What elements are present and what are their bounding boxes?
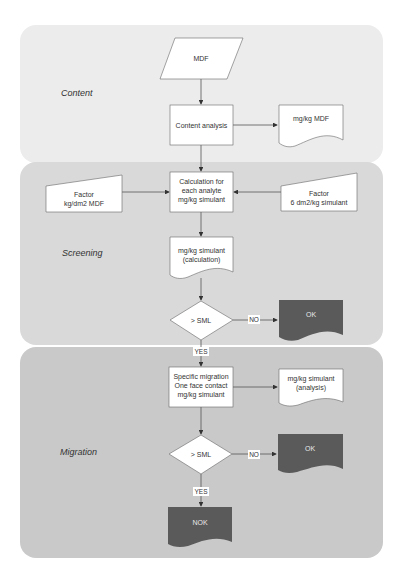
svg-text:mg/kg simulant: mg/kg simulant [287,375,334,383]
section-label-content: Content [61,88,93,98]
svg-text:(analysis): (analysis) [296,384,326,392]
svg-text:Specific migration: Specific migration [173,373,228,381]
svg-text:mg/kg MDF: mg/kg MDF [293,115,329,123]
edge-label-yes-2: YES [194,488,208,495]
section-label-migration: Migration [60,447,97,457]
svg-text:Factor: Factor [309,190,330,197]
svg-text:(calculation): (calculation) [183,256,221,264]
svg-text:OK: OK [306,311,316,318]
edge-label-no-2: NO [249,451,259,458]
section-label-screening: Screening [62,248,103,258]
svg-text:Content analysis: Content analysis [176,122,228,130]
svg-text:> SML: > SML [191,451,212,458]
svg-text:kg/dm2 MDF: kg/dm2 MDF [64,200,104,208]
edge-label-no-1: NO [249,316,259,323]
svg-text:NOK: NOK [192,519,208,526]
svg-text:each analyte: each analyte [182,187,222,195]
svg-text:Calculation for: Calculation for [179,178,224,185]
svg-text:mg/kg simulant: mg/kg simulant [178,247,225,255]
svg-text:mg/kg simulant: mg/kg simulant [177,391,224,399]
edge-label-yes-1: YES [194,348,208,355]
svg-text:One face contact: One face contact [175,382,228,389]
node-calculation: Calculation for each analyte mg/kg simul… [170,172,233,212]
svg-text:> SML: > SML [191,317,212,324]
node-specific-migration: Specific migration One face contact mg/k… [169,367,233,407]
svg-text:mg/kg simulant: mg/kg simulant [178,196,225,204]
svg-text:Factor: Factor [74,191,95,198]
svg-text:6 dm2/kg simulant: 6 dm2/kg simulant [291,199,348,207]
svg-text:MDF: MDF [193,55,208,62]
flowchart: Content Screening Migration MDF Content … [0,0,403,577]
node-content-analysis: Content analysis [170,105,233,145]
svg-text:OK: OK [305,445,315,452]
